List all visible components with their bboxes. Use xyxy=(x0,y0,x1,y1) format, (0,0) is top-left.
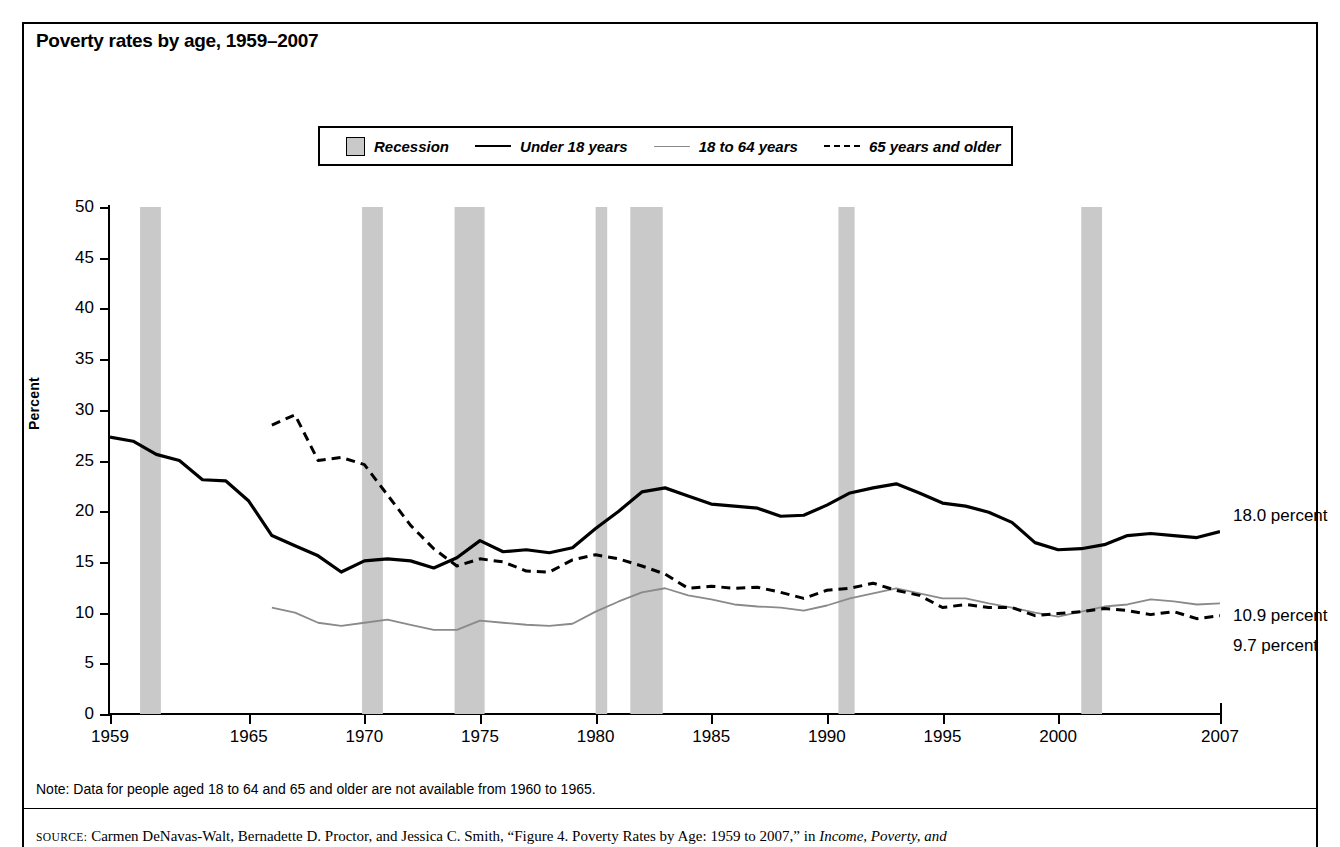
annotation-18-to-64: 10.9 percent xyxy=(1233,606,1328,626)
y-tick-label: 0 xyxy=(60,705,94,722)
x-tick-label: 1965 xyxy=(219,727,279,747)
annotation-65-and-older: 9.7 percent xyxy=(1233,636,1318,656)
y-tick-label: 20 xyxy=(60,502,94,519)
chart-note: Note: Data for people aged 18 to 64 and … xyxy=(36,781,596,797)
dashed-line-icon xyxy=(824,145,860,147)
y-tick-label: 5 xyxy=(60,654,94,671)
y-tick-label: 30 xyxy=(60,401,94,418)
x-tick-label: 1990 xyxy=(797,727,857,747)
x-tick-label: 1995 xyxy=(913,727,973,747)
x-tick-mark xyxy=(943,715,945,724)
series-line-under-18-years xyxy=(110,437,1220,572)
x-tick-label: 1980 xyxy=(566,727,626,747)
legend-item-under-18: Under 18 years xyxy=(475,138,628,155)
chart-source: SOURCE: Carmen DeNavas-Walt, Bernadette … xyxy=(36,828,947,845)
legend-item-18-to-64: 18 to 64 years xyxy=(654,138,798,155)
recession-band xyxy=(596,207,608,714)
x-tick-mark xyxy=(364,715,366,724)
x-tick-mark xyxy=(827,715,829,724)
x-tick-label: 2000 xyxy=(1028,727,1088,747)
x-tick-mark xyxy=(1220,715,1222,724)
annotation-under-18: 18.0 percent xyxy=(1233,506,1328,526)
note-divider xyxy=(24,808,1316,809)
recession-swatch-icon xyxy=(346,137,365,156)
x-axis-right-cap xyxy=(1220,703,1222,714)
legend-label-recession: Recession xyxy=(374,138,449,155)
y-tick-label: 10 xyxy=(60,604,94,621)
legend-item-recession: Recession xyxy=(346,137,449,156)
thin-line-icon xyxy=(654,146,690,147)
recession-band xyxy=(1081,207,1102,714)
source-italic: Income, Poverty, and xyxy=(819,828,946,844)
x-tick-mark xyxy=(596,715,598,724)
page-title: Poverty rates by age, 1959–2007 xyxy=(36,30,318,52)
x-tick-label: 1959 xyxy=(80,727,140,747)
x-tick-mark xyxy=(480,715,482,724)
x-tick-mark xyxy=(110,715,112,724)
recession-band xyxy=(362,207,383,714)
legend-label-under-18: Under 18 years xyxy=(520,138,628,155)
recession-band xyxy=(838,207,854,714)
source-text: Carmen DeNavas-Walt, Bernadette D. Proct… xyxy=(91,828,819,844)
legend-item-65-and-older: 65 years and older xyxy=(824,138,1001,155)
legend-label-65-and-older: 65 years and older xyxy=(869,138,1001,155)
x-tick-label: 2007 xyxy=(1190,727,1250,747)
chart-page: Poverty rates by age, 1959–2007 Recessio… xyxy=(0,0,1340,847)
recession-band xyxy=(630,207,662,714)
x-tick-mark xyxy=(1058,715,1060,724)
x-tick-mark xyxy=(711,715,713,724)
x-tick-label: 1975 xyxy=(450,727,510,747)
y-tick-label: 25 xyxy=(60,452,94,469)
legend-label-18-to-64: 18 to 64 years xyxy=(699,138,798,155)
chart-plot-area xyxy=(110,207,1220,714)
series-line-65-years-and-older xyxy=(272,415,1220,619)
y-tick-label: 50 xyxy=(60,198,94,215)
recession-band xyxy=(455,207,485,714)
series-line-18-to-64-years xyxy=(272,588,1220,630)
source-label: SOURCE: xyxy=(36,831,87,843)
chart-legend: Recession Under 18 years 18 to 64 years … xyxy=(318,126,1013,166)
y-axis-label: Percent xyxy=(26,377,42,430)
solid-line-icon xyxy=(475,145,511,147)
recession-band xyxy=(140,207,161,714)
y-tick-label: 15 xyxy=(60,553,94,570)
y-tick-label: 40 xyxy=(60,299,94,316)
x-tick-label: 1985 xyxy=(681,727,741,747)
x-tick-label: 1970 xyxy=(334,727,394,747)
y-tick-label: 35 xyxy=(60,350,94,367)
y-tick-label: 45 xyxy=(60,249,94,266)
x-tick-mark xyxy=(249,715,251,724)
